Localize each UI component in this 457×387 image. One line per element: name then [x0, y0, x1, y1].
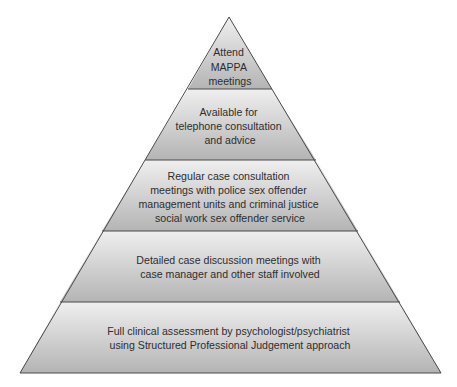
layer-1-line-1: Attend — [213, 46, 244, 58]
pyramid-layer-4: Detailed case discussion meetings with c… — [60, 231, 400, 302]
pyramid-layer-3: Regular case consultation meetings with … — [102, 160, 358, 231]
layer-5-shape — [20, 302, 441, 373]
layer-5-line-2: using Structured Professional Judgement … — [110, 339, 351, 351]
pyramid-layer-1: Attend MAPPA meetings — [188, 17, 272, 89]
layer-3-line-2: meetings with police sex offender — [150, 184, 307, 196]
layer-3-line-3: management units and criminal justice — [138, 198, 318, 210]
layer-1-line-2: MAPPA — [211, 61, 248, 73]
layer-2-line-3: and advice — [204, 134, 255, 146]
pyramid-diagram: Attend MAPPA meetings Available for tele… — [0, 0, 457, 387]
pyramid-layer-5: Full clinical assessment by psychologist… — [20, 302, 441, 373]
layer-4-line-2: case manager and other staff involved — [140, 268, 320, 280]
layer-2-line-1: Available for — [199, 106, 258, 118]
layer-3-line-1: Regular case consultation — [168, 170, 290, 182]
layer-2-line-2: telephone consultation — [176, 120, 282, 132]
pyramid-layer-2: Available for telephone consultation and… — [145, 89, 316, 160]
layer-1-line-3: meetings — [209, 75, 252, 87]
layer-4-line-1: Detailed case discussion meetings with — [136, 254, 320, 266]
layer-4-shape — [60, 231, 400, 302]
layer-1-label: Attend MAPPA meetings — [209, 46, 252, 87]
layer-3-line-4: social work sex offender service — [155, 212, 305, 224]
layer-5-line-1: Full clinical assessment by psychologist… — [107, 325, 350, 337]
